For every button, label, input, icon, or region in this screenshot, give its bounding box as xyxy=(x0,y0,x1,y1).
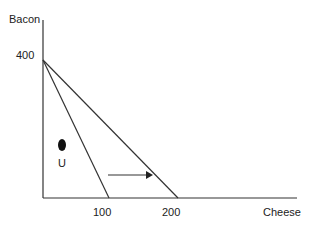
budget-line-2 xyxy=(43,60,178,198)
chart: U Bacon 400 100 200 Cheese xyxy=(0,0,314,228)
y-axis-label: Bacon xyxy=(9,13,40,25)
x-axis-label: Cheese xyxy=(263,206,301,218)
point-u-marker xyxy=(58,139,66,151)
point-u-label: U xyxy=(58,157,66,169)
budget-line-1 xyxy=(43,60,109,198)
x-tick-200: 200 xyxy=(162,206,180,218)
y-tick-400: 400 xyxy=(16,49,34,61)
x-tick-100: 100 xyxy=(93,206,111,218)
